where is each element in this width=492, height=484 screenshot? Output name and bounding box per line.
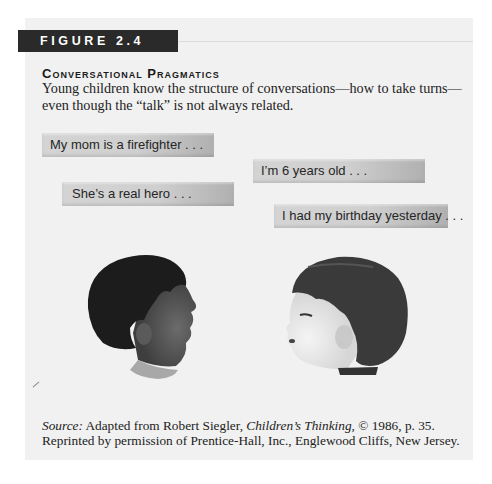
child-portrait-right	[278, 253, 413, 378]
figure-title: Conversational Pragmatics	[42, 66, 220, 81]
source-line-1: Source: Adapted from Robert Siegler, Chi…	[42, 418, 472, 433]
speech-bubble: She’s a real hero . . .	[62, 182, 234, 206]
source-citation: Source: Adapted from Robert Siegler, Chi…	[42, 418, 472, 448]
figure-title-text: Conversational Pragmatics	[42, 66, 220, 81]
figure-description: Young children know the structure of con…	[42, 80, 462, 114]
book-title: Children’s Thinking	[246, 418, 351, 433]
figure-label: FIGURE 2.4	[18, 30, 178, 52]
speech-bubble: I’m 6 years old . . .	[253, 159, 425, 183]
child-portrait-left	[78, 248, 203, 380]
source-label: Source:	[42, 418, 83, 433]
speech-bubble: I had my birthday yesterday . . .	[274, 204, 448, 228]
speech-bubble: My mom is a firefighter . . .	[42, 133, 214, 157]
source-line-2: Reprinted by permission of Prentice-Hall…	[42, 433, 472, 448]
divider	[178, 41, 473, 42]
